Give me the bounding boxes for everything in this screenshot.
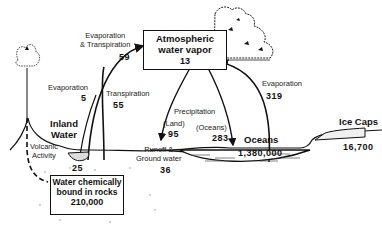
runoff-label: Runoff & Ground water [136,146,181,163]
precip-ocean-label: (Oceans) [196,124,227,133]
evaporation-ocean-value: 319 [266,91,283,101]
precip-land-value: 95 [168,129,179,139]
ice-caps-label: Ice Caps [339,117,378,128]
evap-ocean-arrow [220,62,269,162]
evaporation-land-value: 5 [81,93,87,103]
rocks-line2: bound in rocks [51,187,123,197]
volcano-icon [16,45,40,118]
precip-land-label: (Land) [163,120,185,129]
evap-transp-label: Evaporation & Transpiration [80,32,130,49]
atmosphere-box: Atmospheric water vapor 13 [143,30,227,70]
inland-water-label: Inland Water [50,119,78,141]
ice-caps-value: 16,700 [343,142,374,152]
runoff-value: 36 [160,165,171,175]
volcanic-label: Volcanic Activity [30,143,58,160]
inland-water-value: 25 [72,163,83,173]
oceans-label: Oceans [244,135,278,146]
rocks-box: Water chemically bound in rocks 210,000 [50,175,124,215]
evap-transp-value: 59 [119,52,130,62]
transpiration-value: 55 [113,100,124,110]
atmosphere-line2: water vapor [144,44,226,55]
precipitation-label: Precipitation [174,108,215,117]
inland-water-basin [68,152,89,161]
atmosphere-value: 13 [144,56,226,67]
rocks-value: 210,000 [51,197,123,208]
transpiration-label: Transpiration [106,90,150,99]
rocks-line1: Water chemically [51,177,123,187]
oceans-value: 1,380,000 [238,148,283,158]
evaporation-land-label: Evaporation [48,84,88,93]
evaporation-ocean-label: Evaporation [262,80,302,89]
atmosphere-line1: Atmospheric [144,33,226,44]
ice-cap [315,128,365,140]
precip-ocean-value: 283 [212,133,229,143]
